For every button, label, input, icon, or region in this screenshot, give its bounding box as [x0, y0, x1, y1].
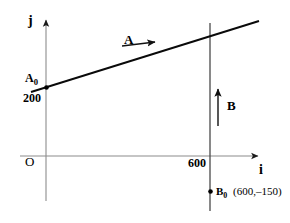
point-a0-letter: A	[25, 71, 34, 85]
j-intercept-value-label: 200	[23, 92, 41, 104]
point-a0	[44, 85, 49, 90]
point-b0	[208, 189, 213, 194]
line-a	[31, 21, 259, 92]
j-axis-label: j	[28, 14, 33, 28]
vector-a-label: A	[124, 33, 133, 46]
i-tick-600-label: 600	[188, 157, 206, 169]
i-axis-label: i	[259, 163, 263, 177]
point-a0-subscript: 0	[34, 77, 38, 87]
point-a0-label: A0	[25, 72, 38, 87]
point-b0-subscript: 0	[223, 191, 227, 200]
vector-b-label: B	[227, 99, 236, 112]
origin-label: O	[25, 155, 34, 168]
point-b0-label: B0	[216, 186, 227, 200]
point-b0-coordinates: (600,–150)	[233, 186, 282, 197]
vector-diagram-figure: j i O A0 200 600 A B B0 (600,–150)	[0, 0, 290, 223]
